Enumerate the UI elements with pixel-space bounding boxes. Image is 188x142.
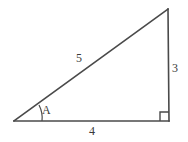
side-hypotenuse-line (14, 9, 168, 121)
triangle-drawing (0, 0, 188, 142)
right-angle-marker (160, 112, 169, 121)
side-opposite-line (168, 9, 169, 121)
label-angle-a: A (42, 104, 51, 116)
label-opposite: 3 (172, 62, 178, 74)
triangle-figure: 5 3 4 A (0, 0, 188, 142)
label-adjacent: 4 (89, 125, 95, 137)
label-hypotenuse: 5 (76, 52, 82, 64)
